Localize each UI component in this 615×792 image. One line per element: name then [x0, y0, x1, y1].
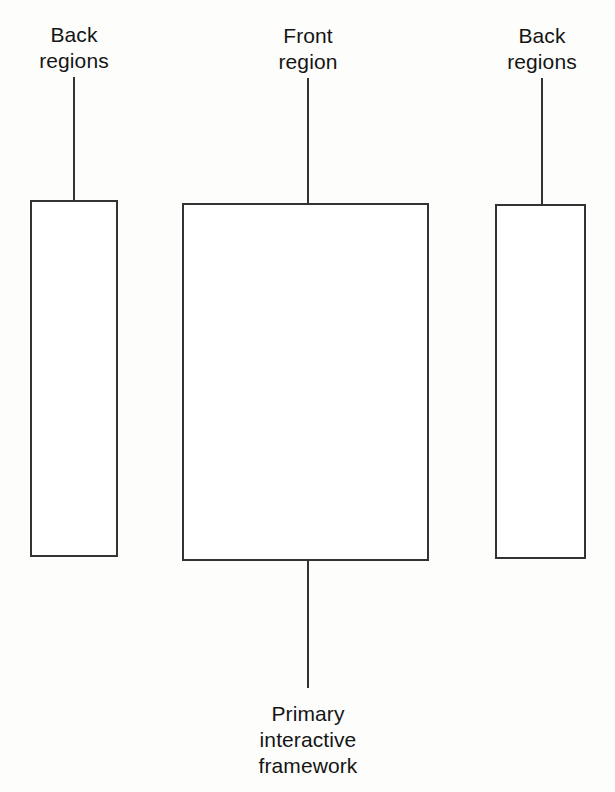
label-back-regions-right: Back regions [472, 23, 612, 75]
diagram-canvas: Back regions Front region Back regions P… [0, 0, 615, 792]
connector-front-region [307, 78, 309, 203]
connector-back-regions-left [73, 77, 75, 200]
box-front-region [182, 203, 429, 561]
connector-back-regions-right [541, 78, 543, 204]
label-back-regions-left: Back regions [4, 22, 144, 74]
box-back-regions-right [495, 204, 586, 559]
box-back-regions-left [30, 200, 118, 557]
label-front-region: Front region [238, 23, 378, 75]
connector-primary-interactive-framework [307, 561, 309, 688]
label-primary-interactive-framework: Primary interactive framework [208, 701, 408, 779]
